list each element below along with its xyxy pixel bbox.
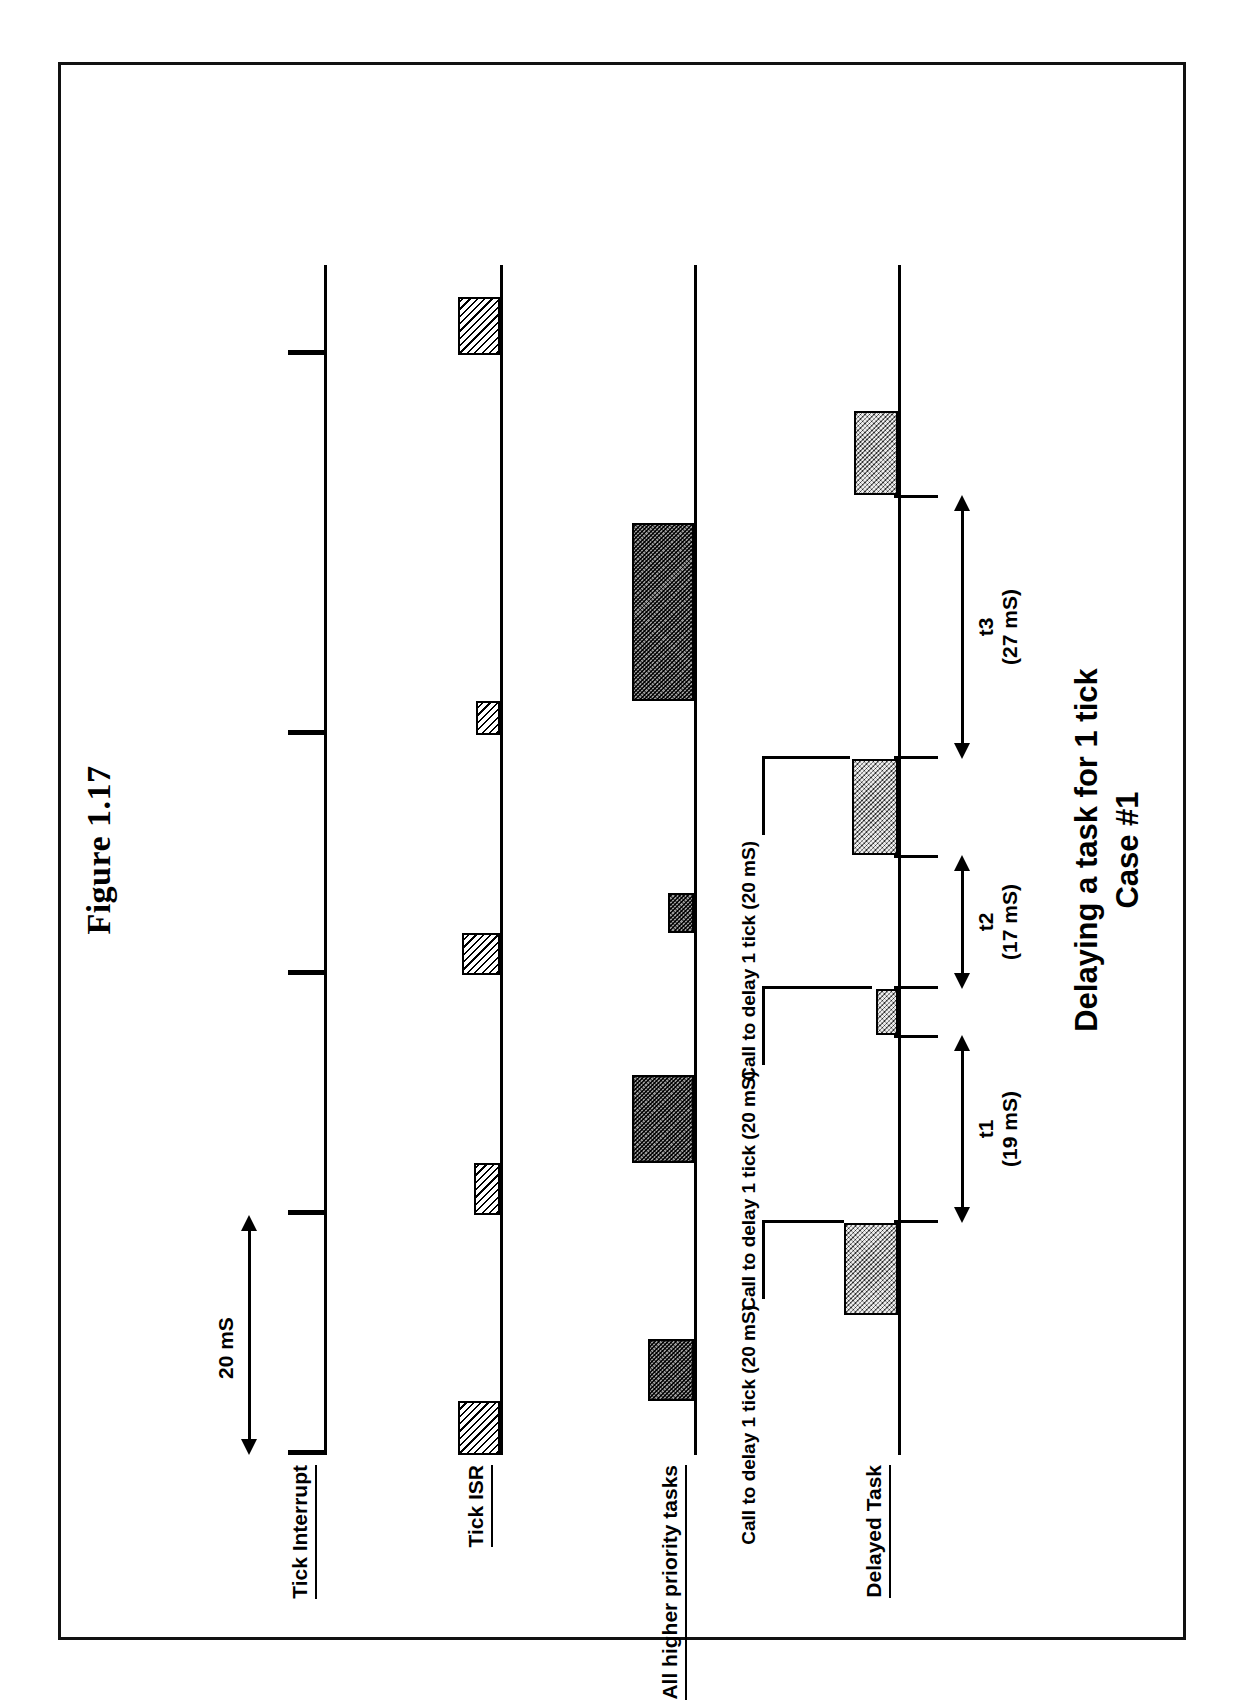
tick-mark (288, 970, 324, 975)
diagram-title-line-1: Delaying a task for 1 tick (1067, 668, 1107, 1032)
arrow-left-head (954, 973, 970, 989)
extension-line (894, 986, 938, 989)
extension-line (894, 495, 938, 498)
arrow-right-head (954, 495, 970, 511)
leader-vertical (762, 986, 872, 989)
arrow-left-head (954, 743, 970, 759)
leader-vertical (762, 756, 850, 759)
measure-bar (961, 1049, 964, 1209)
figure-caption: Figure 1.17 (80, 765, 118, 934)
tick-period-label: 20 mS (214, 1317, 238, 1379)
diagram-title: Delaying a task for 1 tick Case #1 (1067, 668, 1148, 1032)
higher-priority-block (648, 1339, 694, 1401)
measure-bar (248, 1229, 251, 1441)
rotated-figure-wrapper: Figure 1.17 20 mS Tick Interrupt Tick IS… (0, 0, 1243, 1700)
tick-mark (288, 730, 324, 735)
measure-value-t1: (19 mS) (998, 1091, 1021, 1167)
lane-baseline (500, 265, 503, 1455)
diagram-title-line-2: Case #1 (1107, 668, 1147, 1032)
arrow-left-head (954, 1207, 970, 1223)
tick-isr-block (458, 297, 500, 355)
callout-label: Call to delay 1 tick (20 mS) (738, 1299, 760, 1545)
leader-vertical (762, 1220, 844, 1223)
leader-horizontal (762, 759, 765, 835)
measure-label-t2: t2 (17 mS) (974, 855, 1022, 989)
extension-line (894, 1220, 938, 1223)
tick-isr-block (474, 1163, 500, 1215)
lane-baseline (694, 265, 697, 1455)
tick-mark (288, 350, 324, 355)
measure-name-t2: t2 (974, 913, 997, 932)
extension-line (894, 756, 938, 759)
arrow-left-head (241, 1439, 257, 1455)
delayed-task-block (852, 759, 898, 855)
arrow-right-head (241, 1215, 257, 1231)
higher-priority-block (668, 893, 694, 933)
measure-name-t3: t3 (974, 618, 997, 637)
arrow-right-head (954, 1035, 970, 1051)
leader-horizontal (762, 989, 765, 1065)
lane-label-higher-priority-tasks: All higher priority tasks (658, 1465, 687, 1700)
callout-label: Call to delay 1 tick (20 mS) (738, 1065, 760, 1311)
measure-value-t3: (27 mS) (998, 589, 1021, 665)
measure-bar (961, 869, 964, 975)
measure-value-t2: (17 mS) (998, 884, 1021, 960)
measure-bar (961, 509, 964, 745)
higher-priority-block (632, 1075, 694, 1163)
lane-baseline (324, 265, 327, 1455)
tick-mark (288, 1450, 324, 1455)
tick-isr-block (462, 933, 500, 975)
delayed-task-block (844, 1223, 898, 1315)
leader-horizontal (762, 1223, 765, 1299)
tick-mark (288, 1210, 324, 1215)
extension-line (894, 855, 938, 858)
arrow-right-head (954, 855, 970, 871)
lane-label-tick-isr: Tick ISR (464, 1465, 493, 1547)
measure-label-t1: t1 (19 mS) (974, 1035, 1022, 1223)
extension-line (894, 1035, 938, 1038)
measure-name-t1: t1 (974, 1120, 997, 1139)
lane-label-delayed-task: Delayed Task (862, 1465, 891, 1598)
timing-diagram-canvas: Figure 1.17 20 mS Tick Interrupt Tick IS… (62, 65, 1182, 1635)
tick-isr-block (476, 701, 500, 735)
measure-label-t3: t3 (27 mS) (974, 495, 1022, 759)
lane-label-tick-interrupt: Tick Interrupt (288, 1465, 317, 1599)
tick-isr-block (458, 1401, 500, 1455)
delayed-task-block (876, 989, 898, 1035)
callout-label: Call to delay 1 tick (20 mS) (738, 835, 760, 1081)
delayed-task-block (854, 411, 898, 495)
higher-priority-block (632, 523, 694, 701)
